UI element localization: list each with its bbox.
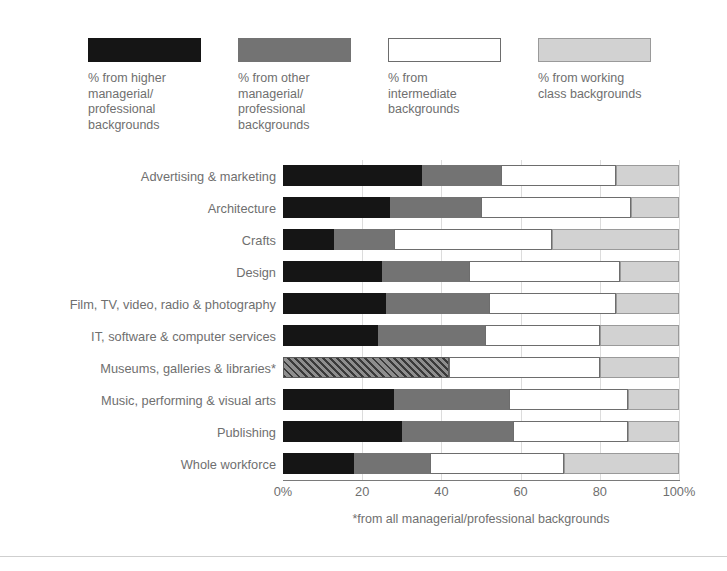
x-tick-label: 20 xyxy=(355,484,369,499)
bar-segment-inter[interactable] xyxy=(509,389,628,410)
x-axis-line xyxy=(283,480,680,481)
bar-area xyxy=(283,160,679,192)
bar-segment-inter[interactable] xyxy=(485,325,600,346)
chart-row: Music, performing & visual arts xyxy=(0,384,727,416)
category-label: Advertising & marketing xyxy=(0,169,283,184)
bar-segment-working[interactable] xyxy=(620,261,679,282)
bar-segment-higher[interactable] xyxy=(283,453,354,474)
bar-segment-higher[interactable] xyxy=(283,229,334,250)
bar-segment-hatched[interactable] xyxy=(283,357,449,378)
bar-segment-working[interactable] xyxy=(631,197,679,218)
bar-segment-other[interactable] xyxy=(394,389,509,410)
bar-segment-inter[interactable] xyxy=(489,293,616,314)
chart-footnote: *from all managerial/professional backgr… xyxy=(283,512,679,526)
bar-segment-other[interactable] xyxy=(354,453,429,474)
legend-swatch-intermediate xyxy=(388,38,501,62)
x-axis-tick-labels: 0%20406080100% xyxy=(283,484,679,504)
bar-segment-inter[interactable] xyxy=(481,197,631,218)
bar-segment-working[interactable] xyxy=(616,293,679,314)
legend-label-intermediate: % from intermediate backgrounds xyxy=(388,71,518,118)
bar-segment-working[interactable] xyxy=(600,357,679,378)
chart-row: Crafts xyxy=(0,224,727,256)
bar-segment-working[interactable] xyxy=(628,421,679,442)
bar-segment-working[interactable] xyxy=(552,229,679,250)
bar-area xyxy=(283,416,679,448)
bar-segment-inter[interactable] xyxy=(449,357,599,378)
bar-segment-other[interactable] xyxy=(386,293,489,314)
x-tick-label: 100% xyxy=(663,484,696,499)
legend-item-higher-managerial: % from higher managerial/ professional b… xyxy=(88,38,238,133)
stacked-bar[interactable] xyxy=(283,261,679,282)
category-label: IT, software & computer services xyxy=(0,329,283,344)
legend-item-intermediate: % from intermediate backgrounds xyxy=(388,38,538,133)
bar-segment-working[interactable] xyxy=(564,453,679,474)
chart-row: Film, TV, video, radio & photography xyxy=(0,288,727,320)
bar-segment-inter[interactable] xyxy=(430,453,565,474)
x-tick-label: 40 xyxy=(434,484,448,499)
chart-row: Advertising & marketing xyxy=(0,160,727,192)
bar-segment-higher[interactable] xyxy=(283,197,390,218)
bar-segment-inter[interactable] xyxy=(501,165,616,186)
stacked-bar-chart: Advertising & marketingArchitectureCraft… xyxy=(0,160,727,480)
bar-segment-inter[interactable] xyxy=(394,229,552,250)
bar-segment-higher[interactable] xyxy=(283,389,394,410)
category-label: Whole workforce xyxy=(0,457,283,472)
legend-label-other-managerial: % from other managerial/ professional ba… xyxy=(238,71,368,133)
category-label: Publishing xyxy=(0,425,283,440)
bar-segment-other[interactable] xyxy=(334,229,393,250)
legend-swatch-other-managerial xyxy=(238,38,351,62)
chart-row: Museums, galleries & libraries* xyxy=(0,352,727,384)
bar-segment-other[interactable] xyxy=(402,421,513,442)
legend-label-working-class: % from working class backgrounds xyxy=(538,71,668,102)
stacked-bar[interactable] xyxy=(283,357,679,378)
legend-swatch-working-class xyxy=(538,38,651,62)
stacked-bar[interactable] xyxy=(283,325,679,346)
bar-area xyxy=(283,192,679,224)
legend-swatch-higher-managerial xyxy=(88,38,201,62)
category-label: Architecture xyxy=(0,201,283,216)
bar-segment-inter[interactable] xyxy=(513,421,628,442)
stacked-bar[interactable] xyxy=(283,165,679,186)
bar-segment-other[interactable] xyxy=(382,261,469,282)
bar-segment-working[interactable] xyxy=(628,389,679,410)
stacked-bar[interactable] xyxy=(283,197,679,218)
bar-segment-other[interactable] xyxy=(378,325,485,346)
bar-segment-working[interactable] xyxy=(616,165,679,186)
chart-row: Architecture xyxy=(0,192,727,224)
category-label: Film, TV, video, radio & photography xyxy=(0,297,283,312)
bar-segment-working[interactable] xyxy=(600,325,679,346)
bar-segment-other[interactable] xyxy=(390,197,481,218)
bar-area xyxy=(283,320,679,352)
stacked-bar[interactable] xyxy=(283,453,679,474)
bar-segment-higher[interactable] xyxy=(283,421,402,442)
bar-segment-higher[interactable] xyxy=(283,165,422,186)
category-label: Crafts xyxy=(0,233,283,248)
stacked-bar[interactable] xyxy=(283,389,679,410)
bar-segment-higher[interactable] xyxy=(283,261,382,282)
bar-area xyxy=(283,224,679,256)
chart-rows: Advertising & marketingArchitectureCraft… xyxy=(0,160,727,480)
x-tick-label: 0% xyxy=(274,484,293,499)
category-label: Design xyxy=(0,265,283,280)
legend-item-other-managerial: % from other managerial/ professional ba… xyxy=(238,38,388,133)
chart-row: Publishing xyxy=(0,416,727,448)
bar-area xyxy=(283,256,679,288)
legend-item-working-class: % from working class backgrounds xyxy=(538,38,688,133)
page-bottom-rule xyxy=(0,556,727,557)
bar-area xyxy=(283,352,679,384)
chart-row: IT, software & computer services xyxy=(0,320,727,352)
bar-segment-higher[interactable] xyxy=(283,325,378,346)
stacked-bar[interactable] xyxy=(283,293,679,314)
bar-segment-inter[interactable] xyxy=(469,261,619,282)
bar-area xyxy=(283,384,679,416)
bar-segment-higher[interactable] xyxy=(283,293,386,314)
chart-legend: % from higher managerial/ professional b… xyxy=(88,38,688,133)
category-label: Museums, galleries & libraries* xyxy=(0,361,283,376)
stacked-bar[interactable] xyxy=(283,229,679,250)
bar-segment-other[interactable] xyxy=(422,165,501,186)
stacked-bar[interactable] xyxy=(283,421,679,442)
bar-area xyxy=(283,448,679,480)
chart-row: Design xyxy=(0,256,727,288)
bar-area xyxy=(283,288,679,320)
category-label: Music, performing & visual arts xyxy=(0,393,283,408)
